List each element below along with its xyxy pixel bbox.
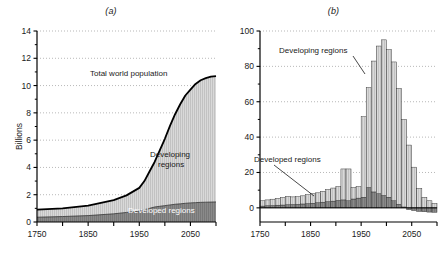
svg-text:1950: 1950 xyxy=(130,229,149,239)
svg-text:Total world population: Total world population xyxy=(90,69,167,78)
figure-container: (a) Billions 024681012141750185019502050… xyxy=(0,0,445,261)
svg-text:0: 0 xyxy=(249,203,254,213)
svg-text:1750: 1750 xyxy=(251,229,270,239)
svg-text:14: 14 xyxy=(22,26,32,36)
svg-text:Developed regions: Developed regions xyxy=(254,155,321,164)
svg-text:6: 6 xyxy=(26,135,31,145)
svg-text:12: 12 xyxy=(22,53,32,63)
svg-text:60: 60 xyxy=(245,97,255,107)
svg-text:2: 2 xyxy=(26,190,31,200)
panel-a-plot: 024681012141750185019502050Total world p… xyxy=(0,0,222,261)
svg-text:1950: 1950 xyxy=(352,229,371,239)
svg-text:40: 40 xyxy=(245,132,255,142)
svg-text:1850: 1850 xyxy=(79,229,98,239)
svg-text:regions: regions xyxy=(158,160,184,169)
svg-text:10: 10 xyxy=(22,81,32,91)
svg-text:20: 20 xyxy=(245,167,255,177)
svg-text:2050: 2050 xyxy=(181,229,200,239)
svg-text:0: 0 xyxy=(26,217,31,227)
svg-text:Developing: Developing xyxy=(150,150,190,159)
svg-text:100: 100 xyxy=(240,26,254,36)
svg-text:Developing regions: Developing regions xyxy=(279,46,348,55)
svg-text:1850: 1850 xyxy=(301,229,320,239)
svg-text:Developed regions: Developed regions xyxy=(128,206,195,215)
panel-a: (a) Billions 024681012141750185019502050… xyxy=(0,0,222,261)
svg-text:8: 8 xyxy=(26,108,31,118)
panel-b-plot: 0204060801001750185019502050Developing r… xyxy=(222,0,445,261)
svg-text:2050: 2050 xyxy=(402,229,421,239)
svg-text:1750: 1750 xyxy=(28,229,47,239)
svg-text:4: 4 xyxy=(26,162,31,172)
svg-text:80: 80 xyxy=(245,61,255,71)
panel-b: (b) Average annual increase per decade (… xyxy=(222,0,445,261)
